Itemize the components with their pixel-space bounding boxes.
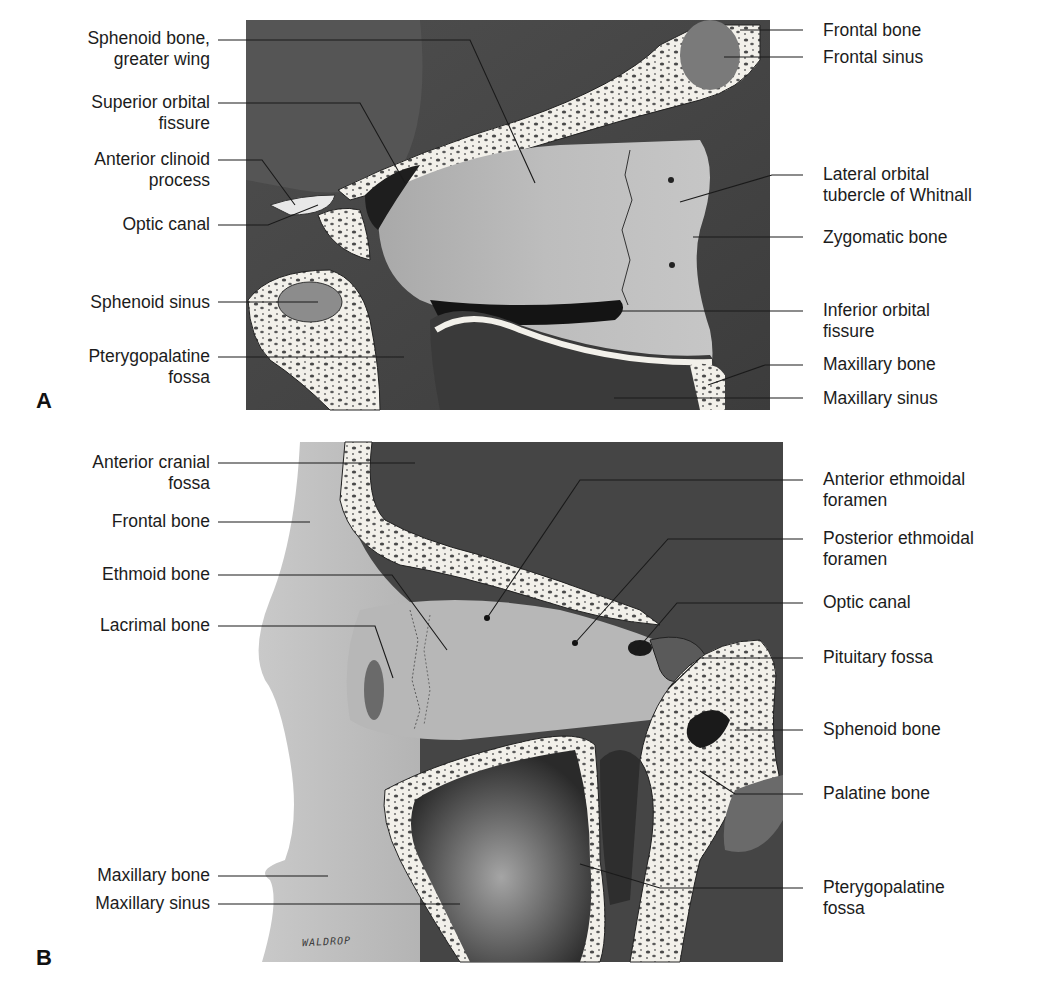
label-frontal-bone-a: Frontal bone bbox=[823, 20, 921, 41]
label-maxillary-bone-b: Maxillary bone bbox=[97, 865, 210, 886]
label-posterior-ethmoidal-foramen: Posterior ethmoidal foramen bbox=[823, 528, 974, 570]
label-sphenoid-bone: Sphenoid bone bbox=[823, 719, 941, 740]
label-frontal-bone-b: Frontal bone bbox=[112, 511, 210, 532]
label-sphenoid-sinus: Sphenoid sinus bbox=[90, 292, 210, 313]
label-lacrimal-bone: Lacrimal bone bbox=[100, 615, 210, 636]
label-inferior-orbital-fissure: Inferior orbital fissure bbox=[823, 300, 930, 342]
label-sphenoid-greater-wing: Sphenoid bone, greater wing bbox=[87, 28, 210, 70]
panel-letter-b: B bbox=[36, 945, 52, 971]
label-frontal-sinus: Frontal sinus bbox=[823, 47, 923, 68]
label-pterygopalatine-fossa-a: Pterygopalatine fossa bbox=[88, 346, 210, 388]
panel-letter-a: A bbox=[36, 388, 52, 414]
label-pterygopalatine-fossa-b: Pterygopalatine fossa bbox=[823, 877, 945, 919]
label-optic-canal-b: Optic canal bbox=[823, 592, 911, 613]
label-maxillary-sinus-a: Maxillary sinus bbox=[823, 388, 938, 409]
label-ethmoid-bone: Ethmoid bone bbox=[102, 564, 210, 585]
label-maxillary-sinus-b: Maxillary sinus bbox=[95, 893, 210, 914]
label-maxillary-bone-a: Maxillary bone bbox=[823, 354, 936, 375]
label-anterior-ethmoidal-foramen: Anterior ethmoidal foramen bbox=[823, 469, 965, 511]
label-anterior-cranial-fossa: Anterior cranial fossa bbox=[92, 452, 210, 494]
label-anterior-clinoid-process: Anterior clinoid process bbox=[94, 149, 210, 191]
panel-b-illustration bbox=[259, 442, 783, 962]
label-superior-orbital-fissure: Superior orbital fissure bbox=[91, 92, 210, 134]
label-palatine-bone: Palatine bone bbox=[823, 783, 930, 804]
label-optic-canal-a: Optic canal bbox=[122, 214, 210, 235]
label-pituitary-fossa: Pituitary fossa bbox=[823, 647, 933, 668]
orbit-anatomy-figure: Sphenoid bone, greater wing Superior orb… bbox=[0, 0, 1037, 990]
label-zygomatic-bone: Zygomatic bone bbox=[823, 227, 948, 248]
label-lateral-orbital-tubercle: Lateral orbital tubercle of Whitnall bbox=[823, 164, 972, 206]
panel-a-illustration bbox=[246, 20, 770, 410]
